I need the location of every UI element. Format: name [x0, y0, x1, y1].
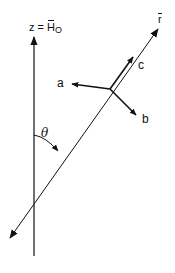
z-axis-label-subscript: O	[55, 25, 62, 35]
vector-c	[110, 57, 133, 89]
vector-b	[110, 89, 136, 115]
vector-b-label: b	[142, 113, 149, 125]
z-axis-label: z = HO	[29, 22, 62, 35]
vector-c-label: c	[138, 59, 144, 71]
r-axis-label: r	[158, 14, 162, 25]
angle-theta-label: θ	[41, 127, 48, 139]
r-axis	[10, 29, 158, 238]
r-axis-label-text: r	[158, 14, 162, 25]
diagram-canvas	[0, 0, 175, 273]
vector-a-label: a	[57, 77, 64, 89]
z-axis-label-prefix: z =	[29, 21, 47, 33]
z-axis-label-H: H	[47, 22, 55, 33]
vector-a	[72, 84, 110, 89]
